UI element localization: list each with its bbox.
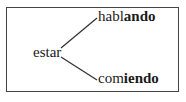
connector-lines [0,0,186,102]
root-word: estar [33,45,61,60]
branch-word-comiendo: comiendo [98,71,159,86]
connector-to-comiendo [61,57,97,80]
connector-to-hablando [61,18,97,48]
word-stem: habl [98,8,124,24]
branch-word-hablando: hablando [98,9,156,24]
word-ending: ando [124,8,156,24]
word-stem: com [98,70,124,86]
word-ending: iendo [124,70,159,86]
